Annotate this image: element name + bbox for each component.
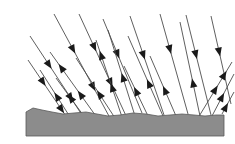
ray-diagram-figure: Diffuse reflection of incident rays from… <box>0 0 235 144</box>
ray-diagram-canvas <box>0 0 235 144</box>
